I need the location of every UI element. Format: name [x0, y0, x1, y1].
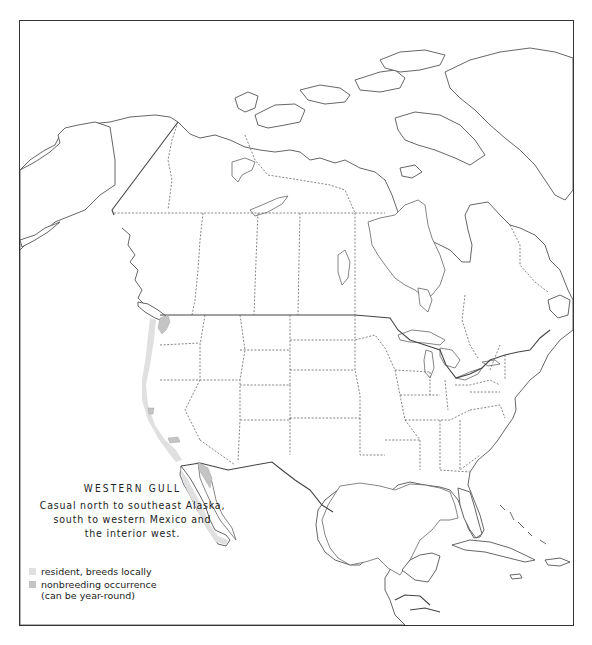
- map-legend: resident, breeds locally nonbreeding occ…: [29, 566, 157, 603]
- arctic-islands-a: [300, 85, 350, 104]
- bahamas: [500, 505, 546, 544]
- southampton-island: [400, 165, 422, 178]
- nonbreeding-swatch: [29, 581, 36, 588]
- banks-island: [235, 92, 258, 112]
- baffin-island: [395, 112, 485, 165]
- greenland: [445, 48, 573, 200]
- description-line: Casual north to southeast Alaska,: [30, 498, 235, 512]
- jamaica: [510, 574, 522, 579]
- arctic-islands-b: [355, 70, 405, 92]
- description-line: the interior west.: [30, 526, 235, 540]
- hispaniola: [545, 558, 570, 566]
- victoria-island: [255, 104, 305, 128]
- legend-label: resident, breeds locally: [41, 566, 152, 578]
- central-america-borders: [395, 595, 440, 612]
- species-title: WESTERN GULL: [30, 483, 235, 494]
- resident-swatch: [29, 568, 36, 575]
- cuba: [452, 540, 535, 562]
- range-nonbreeding-sf-bay: [148, 408, 154, 414]
- range-nonbreeding-salton: [168, 437, 180, 443]
- map-caption: WESTERN GULL Casual north to southeast A…: [30, 483, 235, 540]
- ellesmere-island: [380, 50, 445, 72]
- range-description: Casual north to southeast Alaska, south …: [30, 498, 235, 540]
- legend-item-resident: resident, breeds locally: [29, 566, 157, 578]
- description-line: south to western Mexico and: [30, 512, 235, 526]
- north-america-map: [0, 0, 592, 645]
- legend-label: nonbreeding occurrence (can be year-roun…: [41, 579, 157, 602]
- legend-item-nonbreeding: nonbreeding occurrence (can be year-roun…: [29, 579, 157, 602]
